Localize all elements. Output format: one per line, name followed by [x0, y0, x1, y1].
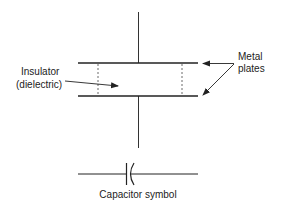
insulator-label-line1: Insulator	[21, 66, 60, 77]
capacitor-symbol-caption: Capacitor symbol	[99, 189, 176, 200]
metal-plates-label-line1: Metal	[238, 51, 262, 62]
capacitor-diagram: Metal plates Insulator (dielectric) Capa…	[0, 0, 283, 207]
insulator-label-line2: (dielectric)	[16, 79, 62, 90]
insulator-arrow	[65, 81, 118, 86]
metal-plates-arrow-bottom	[203, 64, 234, 95]
metal-plates-label-line2: plates	[238, 63, 265, 74]
